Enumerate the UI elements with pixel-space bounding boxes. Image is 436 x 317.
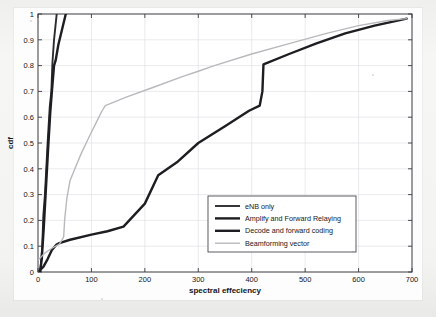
chart-legend[interactable]: eNB onlyAmplify and Forward RelayingDeco…: [208, 196, 356, 252]
legend-label-4: Beamforming vector: [245, 239, 310, 248]
y-tick-label: 0.1: [24, 242, 34, 251]
y-tick-label: 0.4: [24, 165, 34, 174]
y-tick-label: 0.5: [24, 139, 34, 148]
x-tick-label: 100: [85, 275, 98, 284]
y-tick-label: 0.8: [24, 61, 34, 70]
y-tick-label: 0.7: [24, 87, 34, 96]
y-tick-label: 0: [30, 268, 34, 277]
scan-speck: [101, 298, 103, 300]
y-tick-label: 1: [30, 10, 34, 19]
y-tick-label: 0.3: [24, 190, 34, 199]
x-tick-label: 200: [139, 275, 152, 284]
x-tick-label: 600: [352, 275, 365, 284]
y-tick-label: 0.6: [24, 113, 34, 122]
x-tick-label: 700: [406, 275, 419, 284]
x-tick-label: 400: [245, 275, 258, 284]
cdf-chart-figure: 0100200300400500600700 00.10.20.30.40.50…: [0, 0, 436, 317]
scan-speck: [30, 20, 32, 22]
legend-label-2: Amplify and Forward Relaying: [245, 214, 341, 223]
legend-label-1: eNB only: [245, 202, 275, 211]
scan-speck: [372, 74, 374, 76]
scan-speck: [352, 251, 354, 252]
legend-label-3: Decode and forward coding: [245, 226, 333, 235]
x-tick-label: 500: [299, 275, 312, 284]
x-tick-label: 0: [36, 275, 40, 284]
chart-canvas: 0100200300400500600700 00.10.20.30.40.50…: [0, 0, 436, 317]
y-tick-label: 0.2: [24, 216, 34, 225]
x-tick-label: 300: [192, 275, 205, 284]
x-axis-title: spectral effeciency: [189, 286, 262, 295]
y-tick-label: 0.9: [24, 36, 34, 45]
y-axis-title: cdf: [6, 137, 15, 149]
